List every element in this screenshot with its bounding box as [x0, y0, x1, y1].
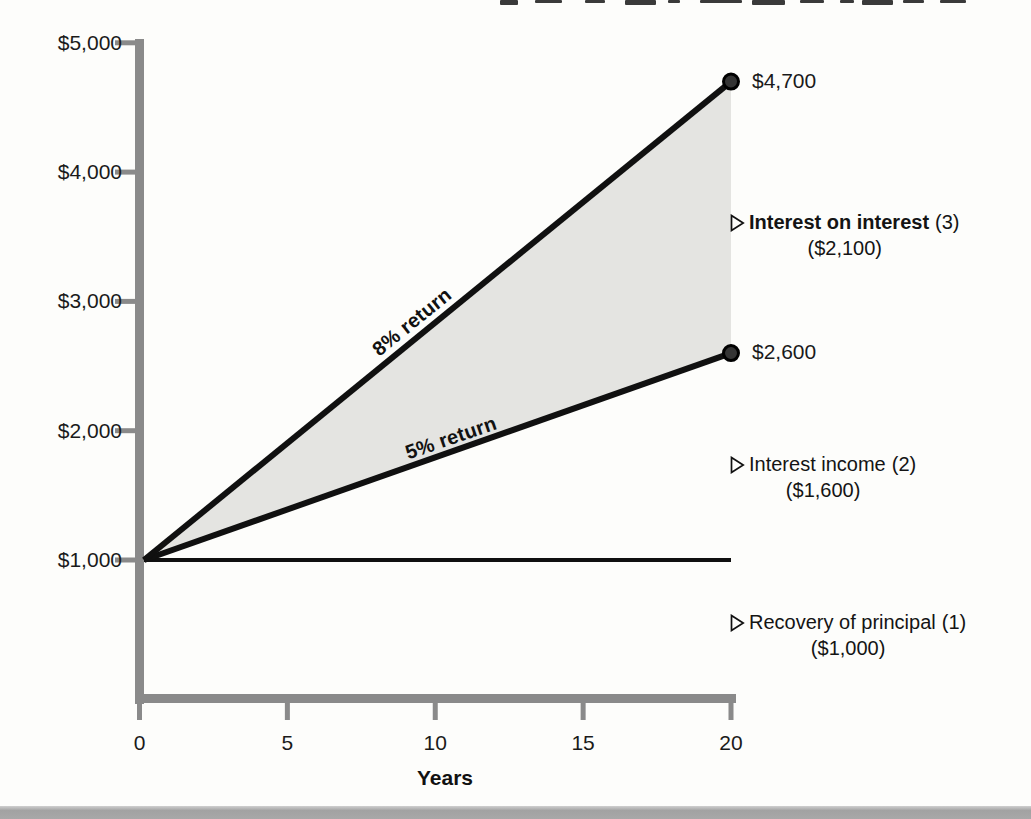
chart-canvas: [0, 0, 1031, 819]
annotation-number: (3): [935, 210, 959, 235]
end-value-label: $2,600: [752, 340, 816, 364]
y-tick-label: $5,000: [14, 30, 122, 56]
annotation-number: (2): [892, 452, 916, 477]
annotation-label: Interest income: [749, 452, 886, 477]
annotation-recovery-of-principal: Recovery of principal (1) ($1,000): [730, 610, 966, 661]
annotation-line: Interest income (2): [730, 452, 916, 477]
x-tick-label: 20: [701, 730, 761, 756]
x-axis-tick: [729, 703, 734, 720]
y-tick-label: $1,000: [14, 547, 122, 573]
x-tick-label: 10: [405, 730, 465, 756]
x-axis: [135, 694, 736, 703]
pointer-triangle-icon: [730, 214, 745, 232]
x-axis-tick: [285, 703, 290, 720]
x-tick-label: 15: [553, 730, 613, 756]
annotation-amount: ($1,600): [730, 478, 916, 503]
annotation-line: Interest on interest (3): [730, 210, 960, 235]
end-point-dot: [724, 74, 739, 89]
y-axis: [135, 39, 144, 704]
annotation-number: (1): [942, 610, 966, 635]
annotation-amount: ($1,000): [730, 636, 966, 661]
x-axis-tick: [433, 703, 438, 720]
x-axis-tick: [137, 703, 142, 720]
annotation-label: Interest on interest: [749, 210, 929, 235]
end-value-label: $4,700: [752, 69, 816, 93]
annotation-interest-on-interest: Interest on interest (3) ($2,100): [730, 210, 960, 261]
annotation-line: Recovery of principal (1): [730, 610, 966, 635]
pointer-triangle-icon: [730, 456, 745, 474]
x-tick-label: 5: [257, 730, 317, 756]
x-tick-label: 0: [110, 730, 170, 756]
annotation-label: Recovery of principal: [749, 610, 936, 635]
annotation-interest-income: Interest income (2) ($1,600): [730, 452, 916, 503]
x-axis-title: Years: [405, 766, 485, 790]
annotation-amount: ($2,100): [730, 236, 960, 261]
pointer-triangle-icon: [730, 614, 745, 632]
end-point-dot: [724, 346, 739, 361]
x-axis-tick: [581, 703, 586, 720]
y-tick-label: $3,000: [14, 288, 122, 314]
scanned-book-figure: $5,000$4,000$3,000$2,000$1,000051015208%…: [0, 0, 1031, 819]
y-tick-label: $2,000: [14, 418, 122, 444]
page-bottom-band: [0, 806, 1031, 819]
y-tick-label: $4,000: [14, 159, 122, 185]
